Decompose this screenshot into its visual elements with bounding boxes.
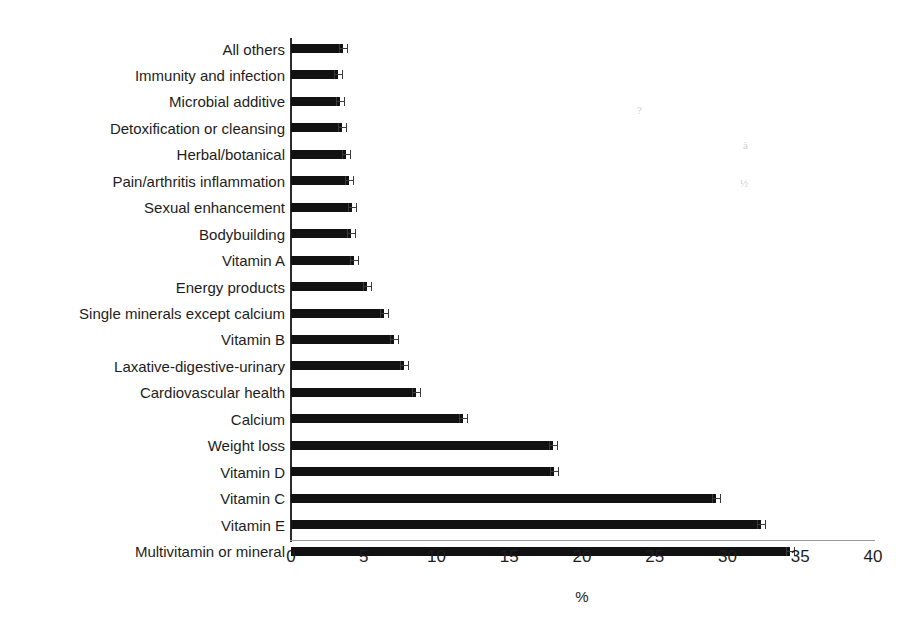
error-bar-cap-left bbox=[336, 97, 337, 106]
bar bbox=[291, 256, 354, 265]
bar bbox=[291, 414, 463, 423]
error-bar bbox=[339, 44, 348, 53]
error-bar bbox=[400, 361, 409, 370]
error-bar bbox=[712, 494, 721, 503]
bar bbox=[291, 467, 554, 476]
category-label: Calcium bbox=[0, 412, 285, 427]
bar bbox=[291, 97, 340, 106]
error-bar-cap-left bbox=[338, 123, 339, 132]
error-bar-cap-right bbox=[358, 256, 359, 265]
category-label: Single minerals except calcium bbox=[0, 306, 285, 321]
error-bar-cap-left bbox=[363, 282, 364, 291]
error-bar-cap-left bbox=[334, 70, 335, 79]
bar-row: Cardiovascular health bbox=[0, 388, 913, 414]
category-label: Immunity and infection bbox=[0, 68, 285, 83]
x-tick-label: 5 bbox=[359, 548, 368, 565]
bar bbox=[291, 388, 416, 397]
scan-artifact: à bbox=[743, 139, 748, 151]
error-bar-cap-right bbox=[720, 494, 721, 503]
error-bar-cap-left bbox=[786, 547, 787, 556]
error-bar-cap-right bbox=[408, 361, 409, 370]
bar-row: Immunity and infection bbox=[0, 70, 913, 96]
error-bar-cap-left bbox=[390, 335, 391, 344]
error-bar bbox=[363, 282, 372, 291]
error-bar-cap-right bbox=[356, 203, 357, 212]
bar-row: Vitamin A bbox=[0, 256, 913, 282]
error-bar bbox=[342, 150, 351, 159]
bar-row: Laxative-digestive-urinary bbox=[0, 361, 913, 387]
error-bar-cap-left bbox=[549, 441, 550, 450]
error-bar-cap-right bbox=[765, 520, 766, 529]
category-label: Detoxification or cleansing bbox=[0, 121, 285, 136]
bar-row: Bodybuilding bbox=[0, 229, 913, 255]
x-tick-label: 25 bbox=[645, 548, 664, 565]
error-bar-cap-right bbox=[347, 44, 348, 53]
bar bbox=[291, 203, 352, 212]
error-bar bbox=[334, 70, 343, 79]
error-bar-cap-right bbox=[420, 388, 421, 397]
category-label: Vitamin D bbox=[0, 465, 285, 480]
x-tick-label: 20 bbox=[573, 548, 592, 565]
error-bar-cap-left bbox=[350, 256, 351, 265]
bar bbox=[291, 361, 404, 370]
category-label: Laxative-digestive-urinary bbox=[0, 359, 285, 374]
horizontal-bar-chart: All othersImmunity and infectionMicrobia… bbox=[0, 0, 913, 633]
error-bar bbox=[350, 256, 359, 265]
category-label: Vitamin B bbox=[0, 332, 285, 347]
error-bar bbox=[345, 176, 354, 185]
error-bar bbox=[336, 97, 345, 106]
error-bar-cap-right bbox=[467, 414, 468, 423]
error-bar-cap-right bbox=[342, 70, 343, 79]
category-label: Bodybuilding bbox=[0, 227, 285, 242]
category-label: Energy products bbox=[0, 280, 285, 295]
error-bar-cap-right bbox=[558, 467, 559, 476]
error-bar-cap-left bbox=[347, 229, 348, 238]
error-bar-cap-left bbox=[550, 467, 551, 476]
x-tick-label: 40 bbox=[864, 548, 883, 565]
bar bbox=[291, 441, 553, 450]
error-bar-cap-right bbox=[355, 229, 356, 238]
bar-row: Detoxification or cleansing bbox=[0, 123, 913, 149]
error-bar-cap-left bbox=[459, 414, 460, 423]
bar-row: Single minerals except calcium bbox=[0, 309, 913, 335]
error-bar bbox=[348, 203, 357, 212]
error-bar bbox=[347, 229, 356, 238]
error-bar-cap-left bbox=[380, 309, 381, 318]
scan-artifact: ½ bbox=[740, 177, 748, 189]
error-bar-cap-right bbox=[353, 176, 354, 185]
error-bar bbox=[459, 414, 468, 423]
x-tick-label: 30 bbox=[718, 548, 737, 565]
bar bbox=[291, 229, 351, 238]
bar-row: Pain/arthritis inflammation bbox=[0, 176, 913, 202]
error-bar-cap-right bbox=[350, 150, 351, 159]
bar-row: Vitamin C bbox=[0, 494, 913, 520]
error-bar-cap-left bbox=[400, 361, 401, 370]
error-bar-cap-left bbox=[712, 494, 713, 503]
bar bbox=[291, 309, 384, 318]
category-label: Pain/arthritis inflammation bbox=[0, 174, 285, 189]
bar bbox=[291, 123, 342, 132]
category-label: Microbial additive bbox=[0, 94, 285, 109]
x-tick-label: 15 bbox=[500, 548, 519, 565]
category-label: Multivitamin or mineral bbox=[0, 544, 285, 559]
bar-row: Weight loss bbox=[0, 441, 913, 467]
category-label: Herbal/botanical bbox=[0, 147, 285, 162]
x-tick-label: 0 bbox=[286, 548, 295, 565]
bar bbox=[291, 176, 349, 185]
bar bbox=[291, 282, 367, 291]
error-bar bbox=[550, 467, 559, 476]
bar bbox=[291, 44, 343, 53]
error-bar-cap-right bbox=[371, 282, 372, 291]
error-bar bbox=[380, 309, 389, 318]
category-label: All others bbox=[0, 42, 285, 57]
bar bbox=[291, 520, 761, 529]
error-bar-cap-right bbox=[398, 335, 399, 344]
category-label: Vitamin C bbox=[0, 491, 285, 506]
bar bbox=[291, 150, 346, 159]
error-bar-cap-right bbox=[344, 97, 345, 106]
bar bbox=[291, 70, 338, 79]
category-label: Vitamin A bbox=[0, 253, 285, 268]
bar-row: Sexual enhancement bbox=[0, 203, 913, 229]
bar bbox=[291, 335, 394, 344]
error-bar-cap-left bbox=[345, 176, 346, 185]
